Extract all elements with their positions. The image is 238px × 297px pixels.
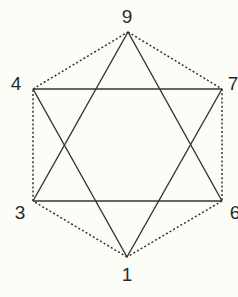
star-of-david-triangles bbox=[33, 32, 222, 257]
solid-edge-6-9 bbox=[128, 32, 222, 201]
dashed-edge-9-7 bbox=[128, 32, 222, 89]
vertex-label-9: 9 bbox=[122, 6, 133, 27]
vertex-label-7: 7 bbox=[228, 73, 238, 94]
dashed-edge-6-1 bbox=[127, 201, 222, 257]
solid-edge-1-4 bbox=[33, 89, 127, 257]
hexagram-diagram: 947361 bbox=[0, 0, 238, 297]
dashed-edge-4-9 bbox=[33, 32, 128, 89]
vertex-label-6: 6 bbox=[230, 202, 238, 223]
diagram-canvas: 947361 bbox=[0, 0, 238, 297]
vertex-labels: 947361 bbox=[11, 6, 238, 285]
vertex-label-4: 4 bbox=[11, 73, 22, 94]
vertex-label-3: 3 bbox=[15, 202, 26, 223]
dashed-edge-1-3 bbox=[33, 201, 127, 257]
dashed-hexagon-outline bbox=[33, 32, 222, 257]
solid-edge-9-3 bbox=[33, 32, 128, 201]
vertex-label-1: 1 bbox=[122, 264, 133, 285]
